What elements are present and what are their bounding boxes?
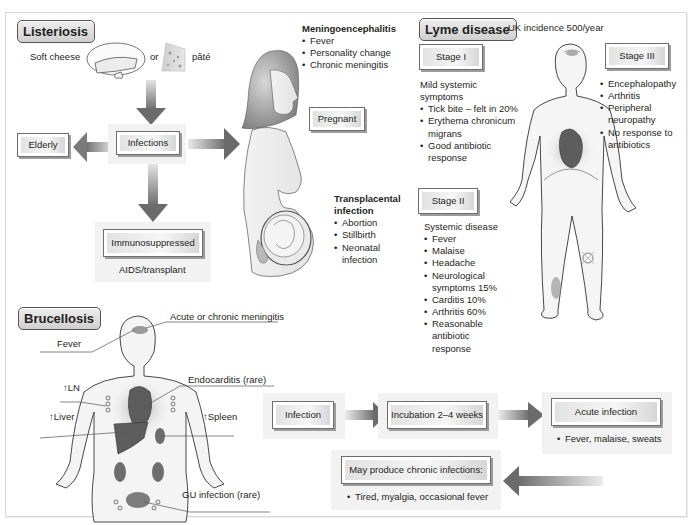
stage-3-box: Stage III (605, 43, 669, 69)
list-item: Fever, malaise, sweats (557, 433, 662, 445)
liver-label: ↑Liver (49, 411, 74, 423)
meningitis-label: Acute or chronic meningitis (170, 311, 284, 323)
stage-1-intro-1: Mild systemic (420, 79, 520, 91)
gu-infection-label: GU infection (rare) (182, 489, 260, 501)
stage-2-details: Systemic disease Fever Malaise Headache … (424, 221, 514, 355)
list-item: Chronic meningitis (302, 59, 396, 71)
flow-step-acute-label: Acute infection (555, 402, 657, 422)
immunosuppressed-label: Immunosuppressed (107, 233, 199, 253)
transplacental-block: Transplacental infection Abortion Stillb… (334, 193, 414, 266)
flow-step-incubation: Incubation 2–4 weeks (387, 401, 487, 429)
list-item: Encephalopathy (600, 78, 674, 90)
fever-label: Fever (57, 338, 81, 350)
lymph-nodes-label: ↑LN (63, 382, 80, 394)
list-item: Good antibiotic response (420, 140, 500, 164)
aids-transplant-caption: AIDS/transplant (119, 264, 186, 276)
cheese-icon (85, 40, 147, 82)
endocarditis-label: Endocarditis (rare) (188, 374, 266, 386)
stage-1-box: Stage I (419, 44, 483, 70)
pregnant-woman-illustration (238, 40, 328, 280)
stage-2-box: Stage II (418, 188, 478, 214)
list-item: Fever (424, 233, 502, 245)
list-item: Stillbirth (334, 229, 394, 241)
chronic-note: Tired, myalgia, occasional fever (347, 491, 488, 503)
list-item: Tick bite – felt in 20% (420, 103, 516, 115)
stage-2-intro: Systemic disease (424, 221, 514, 233)
acute-note: Fever, malaise, sweats (557, 433, 662, 445)
stage-3-details: Encephalopathy Arthritis Peripheral neur… (600, 78, 685, 151)
list-item: Carditis 10% (424, 294, 502, 306)
pregnant-box: Pregnant (309, 107, 365, 131)
arrow-left-icon (73, 132, 113, 162)
arrow-right-icon (188, 128, 240, 160)
spleen-label: ↑Spleen (203, 411, 237, 423)
meningoencephalitis-heading: Meningoencephalitis (302, 23, 396, 35)
stage-1-details: Mild systemic symptoms Tick bite – felt … (420, 79, 520, 164)
pregnant-label: Pregnant (313, 111, 361, 127)
pate-icon (160, 41, 187, 73)
flow-step-chronic: May produce chronic infections: (341, 456, 491, 484)
arrow-right-icon (498, 402, 544, 428)
list-item: Reasonable antibiotic response (424, 318, 502, 354)
list-item: Peripheral neuropathy (600, 102, 674, 126)
immunosuppressed-box: Immunosuppressed (103, 229, 203, 257)
flow-step-infection: Infection (272, 401, 334, 429)
list-item: Tired, myalgia, occasional fever (347, 491, 488, 503)
list-item: Abortion (334, 217, 394, 229)
lyme-title: Lyme disease (419, 18, 517, 41)
flow-step-acute: Acute infection (551, 398, 661, 426)
soft-cheese-label: Soft cheese (30, 51, 80, 63)
stage-1-intro-2: symptoms (420, 91, 520, 103)
stage-3-label: Stage III (609, 47, 665, 65)
pate-label: pâté (192, 51, 211, 63)
meningoencephalitis-block: Meningoencephalitis Fever Personality ch… (302, 23, 396, 72)
stage-1-label: Stage I (423, 48, 479, 66)
list-item: Erythema chronicum migrans (420, 115, 516, 139)
list-item: No response to antibiotics (600, 127, 674, 151)
transplacental-heading-1: Transplacental (334, 193, 414, 205)
infections-box: Infections (116, 131, 180, 155)
arrow-down-icon (138, 164, 168, 222)
list-item: Fever (302, 35, 396, 47)
list-item: Headache (424, 257, 502, 269)
elderly-label: Elderly (21, 137, 65, 153)
list-item: Neurological symptoms 15% (424, 270, 502, 294)
or-label: or (150, 51, 158, 63)
list-item: Personality change (302, 47, 396, 59)
stage-2-label: Stage II (422, 192, 474, 210)
flow-step-incubation-label: Incubation 2–4 weeks (391, 405, 483, 425)
arrow-down-icon (136, 80, 166, 125)
flow-step-chronic-label: May produce chronic infections: (345, 460, 487, 480)
arrow-left-icon (503, 466, 603, 496)
infections-label: Infections (120, 135, 176, 151)
list-item: Malaise (424, 245, 502, 257)
listeriosis-title: Listeriosis (17, 20, 95, 43)
lyme-incidence: UK incidence 500/year (508, 22, 604, 34)
flow-step-infection-label: Infection (276, 405, 330, 425)
elderly-box: Elderly (17, 133, 69, 157)
list-item: Arthritis 60% (424, 306, 502, 318)
transplacental-heading-2: infection (334, 205, 414, 217)
list-item: Neonatal infection (334, 242, 394, 266)
list-item: Arthritis (600, 90, 674, 102)
